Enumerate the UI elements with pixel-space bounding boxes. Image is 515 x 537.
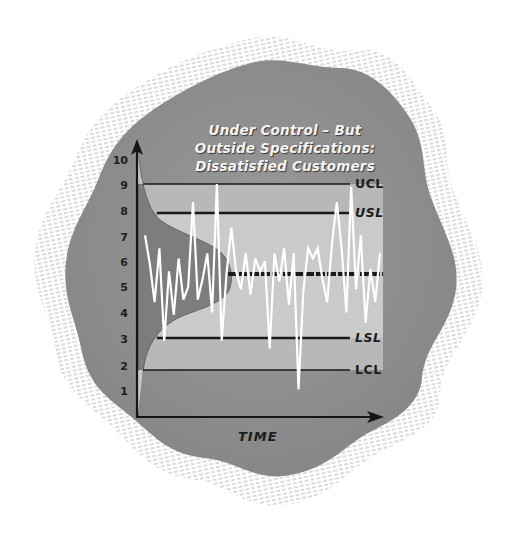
y-tick-7: 7: [104, 231, 128, 244]
control-chart-figure: Under Control – But Outside Specificatio…: [0, 0, 515, 537]
x-axis-label: TIME: [238, 429, 278, 444]
y-tick-4: 4: [104, 307, 128, 320]
lsl-label: LSL: [355, 330, 381, 345]
title-line-3: Dissatisfied Customers: [150, 158, 420, 174]
title-line-2: Outside Specifications:: [150, 140, 420, 156]
y-tick-6: 6: [104, 256, 128, 269]
y-tick-9: 9: [104, 179, 128, 192]
y-tick-2: 2: [104, 360, 128, 373]
y-tick-1: 1: [104, 385, 128, 398]
y-tick-10: 10: [104, 154, 128, 167]
y-tick-8: 8: [104, 205, 128, 218]
y-tick-5: 5: [104, 281, 128, 294]
lcl-label: LCL: [355, 362, 382, 377]
chart-svg: [0, 0, 515, 537]
y-tick-3: 3: [104, 333, 128, 346]
usl-label: USL: [355, 205, 384, 220]
ucl-label: UCL: [355, 176, 384, 191]
title-line-1: Under Control – But: [150, 122, 420, 138]
